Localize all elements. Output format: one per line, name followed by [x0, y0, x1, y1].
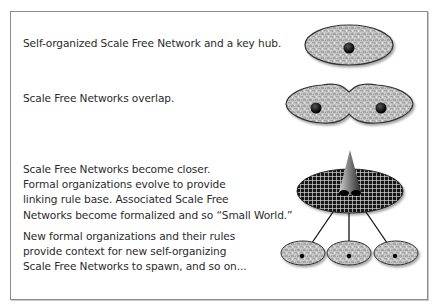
- overlapping-networks-icon: [286, 84, 413, 123]
- single-network-icon: [305, 25, 393, 65]
- diagram-illustrations: [0, 0, 438, 308]
- spawned-networks-icon: [281, 241, 418, 265]
- small-world-organization-icon: [297, 150, 403, 213]
